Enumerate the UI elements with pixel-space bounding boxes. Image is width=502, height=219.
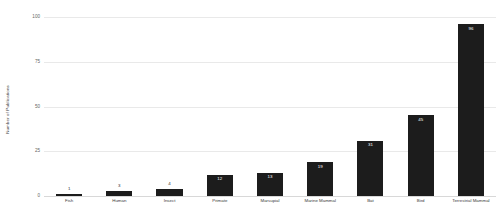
- x-axis-category-label: Terrestrial Mammal: [444, 199, 498, 203]
- bar[interactable]: [106, 191, 132, 196]
- y-axis-tick-label: 75: [35, 59, 40, 64]
- bar-series: 1Fish3Human4Insect12Primate13Marsupial19…: [44, 17, 496, 196]
- bar[interactable]: [56, 194, 82, 196]
- x-axis-category-label: Marsupial: [243, 199, 297, 203]
- y-axis-tick-label: 0: [37, 194, 40, 199]
- x-axis-category-label: Bird: [394, 199, 448, 203]
- bar-value-label: 12: [207, 177, 233, 181]
- bar-group[interactable]: 45Bird: [408, 17, 434, 196]
- bar-group[interactable]: 1Fish: [56, 17, 82, 196]
- bar-chart-figure: Number of Publications 1007550250 1Fish3…: [0, 0, 502, 219]
- bar-value-label: 19: [307, 165, 333, 169]
- bar-value-label: 3: [106, 184, 132, 188]
- bar-value-label: 4: [156, 182, 182, 186]
- bar-value-label: 96: [458, 27, 484, 31]
- bar[interactable]: [408, 115, 434, 196]
- bar-value-label: 1: [56, 187, 82, 191]
- bar-group[interactable]: 13Marsupial: [257, 17, 283, 196]
- bar-group[interactable]: 19Marine Mammal: [307, 17, 333, 196]
- plot-area: 1007550250 1Fish3Human4Insect12Primate13…: [44, 17, 496, 196]
- bar-group[interactable]: 3Human: [106, 17, 132, 196]
- y-axis-tick-label: 25: [35, 149, 40, 154]
- bar-group[interactable]: 12Primate: [207, 17, 233, 196]
- x-axis-category-label: Bat: [343, 199, 397, 203]
- bar[interactable]: [357, 141, 383, 196]
- bar-group[interactable]: 31Bat: [357, 17, 383, 196]
- y-axis-tick-label: 100: [32, 15, 40, 20]
- bar[interactable]: [458, 24, 484, 196]
- bar-group[interactable]: 96Terrestrial Mammal: [458, 17, 484, 196]
- x-axis-category-label: Insect: [142, 199, 196, 203]
- bar-value-label: 45: [408, 118, 434, 122]
- bar[interactable]: [156, 189, 182, 196]
- gridline: 0: [44, 196, 496, 197]
- y-axis-title: Number of Publications: [0, 0, 14, 219]
- x-axis-category-label: Fish: [42, 199, 96, 203]
- bar-value-label: 13: [257, 175, 283, 179]
- y-axis-tick-label: 50: [35, 104, 40, 109]
- x-axis-category-label: Primate: [193, 199, 247, 203]
- x-axis-category-label: Human: [92, 199, 146, 203]
- bar-value-label: 31: [357, 143, 383, 147]
- bar-group[interactable]: 4Insect: [156, 17, 182, 196]
- x-axis-category-label: Marine Mammal: [293, 199, 347, 203]
